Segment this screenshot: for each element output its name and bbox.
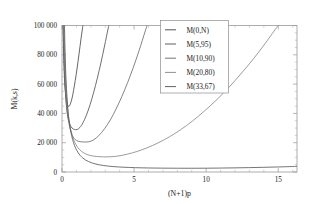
y-tick-label: 40 000 bbox=[37, 110, 57, 118]
legend-label: M(20,80) bbox=[187, 68, 216, 77]
x-tick-label: 0 bbox=[60, 176, 64, 184]
y-tick-label: 0 bbox=[53, 169, 57, 177]
x-axis-title: (N+1)p bbox=[168, 189, 191, 198]
legend-label: M(0,N) bbox=[187, 26, 210, 35]
line-chart: 051015 020 00040 00060 00080 000100 000 … bbox=[0, 0, 319, 204]
y-tick-label: 80 000 bbox=[37, 51, 57, 59]
chart-background bbox=[0, 0, 319, 204]
y-tick-label: 100 000 bbox=[34, 22, 58, 30]
chart-legend: M(0,N)M(5,95)M(10,90)M(20,80)M(33,67) bbox=[161, 21, 229, 94]
x-tick-label: 5 bbox=[132, 176, 136, 184]
y-tick-label: 20 000 bbox=[37, 139, 57, 147]
legend-label: M(33,67) bbox=[187, 82, 216, 91]
x-tick-label: 15 bbox=[275, 176, 283, 184]
legend-label: M(5,95) bbox=[187, 40, 212, 49]
legend-label: M(10,90) bbox=[187, 54, 216, 63]
y-axis-title: M(k,s) bbox=[10, 88, 19, 109]
y-tick-label: 60 000 bbox=[37, 81, 57, 89]
figure-container: 051015 020 00040 00060 00080 000100 000 … bbox=[0, 0, 319, 204]
x-tick-label: 10 bbox=[203, 176, 211, 184]
